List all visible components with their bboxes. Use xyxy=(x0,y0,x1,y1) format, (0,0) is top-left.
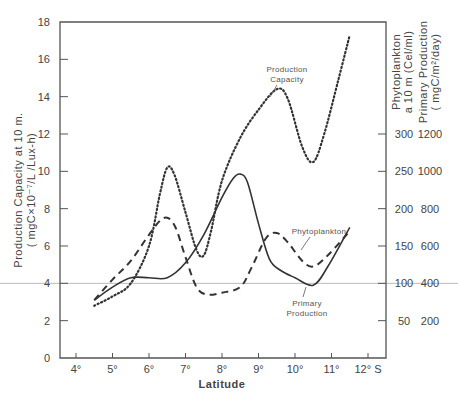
y-right-prod-line2: ( mgC/m²/day) xyxy=(429,34,441,111)
y-left-tick-label: 16 xyxy=(38,53,50,65)
y-axis-right-title-prod: Primary Production ( mgC/m²/day) xyxy=(417,21,441,124)
annotation-primary-production-line1: Primary xyxy=(292,299,322,308)
y-axis-right-title-phyto: Phytoplankton a 10 m (Cel/ml) xyxy=(390,31,414,114)
series-production-capacity xyxy=(94,35,350,306)
y-right-phyto-line1: Phytoplankton xyxy=(390,34,402,110)
y-right-prod-label: 1000 xyxy=(418,165,442,177)
y-right-prod-label: 400 xyxy=(421,277,439,289)
y-left-tick-label: 12 xyxy=(38,128,50,140)
x-tick-label: 4° xyxy=(71,363,82,375)
x-tick-label: 5° xyxy=(107,363,118,375)
annotation-production-capacity-line2: Capacity xyxy=(270,75,304,84)
x-tick-label: 10° xyxy=(287,363,304,375)
x-tick-label: 11° xyxy=(324,363,340,375)
x-tick-label: 8° xyxy=(217,363,228,375)
y-left-tick-label: 18 xyxy=(38,16,50,28)
y-right-phyto-label: 50 xyxy=(398,315,410,327)
plot-frame xyxy=(60,22,386,358)
y-right-phyto-label: 300 xyxy=(395,128,413,140)
x-tick-label: 6° xyxy=(144,363,155,375)
y-axis-left-title: Production Capacity at 10 m. ( mgC×10⁻⁷/… xyxy=(12,112,37,267)
y-left-tick-label: 8 xyxy=(44,203,50,215)
annotation-phytoplankton: Phytoplankton xyxy=(292,227,347,236)
y-right-prod-label: 200 xyxy=(421,315,439,327)
y-right-phyto-label: 150 xyxy=(395,240,413,252)
y-left-title-line1: Production Capacity at 10 m. xyxy=(12,112,24,267)
y-left-title-line2: ( mgC×10⁻⁷/L /Lux-h) xyxy=(25,133,37,247)
y-right-phyto-line2: a 10 m (Cel/ml) xyxy=(402,31,414,114)
annotation-production-capacity-line1: Production xyxy=(266,65,307,74)
y-right-phyto-label: 200 xyxy=(395,203,413,215)
x-tick-label: 7° xyxy=(180,363,191,375)
series-group xyxy=(94,35,350,306)
y-right-prod-line1: Primary Production xyxy=(417,21,429,124)
x-tick-label: 9° xyxy=(253,363,264,375)
y-left-tick-label: 4 xyxy=(44,277,50,289)
y-left-tick-label: 6 xyxy=(44,240,50,252)
y-left-tick-label: 2 xyxy=(44,315,50,327)
y-left-tick-label: 14 xyxy=(38,91,50,103)
x-axis: 4°5°6°7°8°9°10°11°12° S xyxy=(71,353,382,375)
x-tick-label: 12° S xyxy=(354,363,381,375)
y-right-prod-label: 1200 xyxy=(418,128,442,140)
annotation-primary-production-line2: Production xyxy=(286,309,327,318)
annotations: ProductionCapacityPhytoplanktonPrimaryPr… xyxy=(266,65,346,318)
y-right-prod-label: 800 xyxy=(421,203,439,215)
y-axis-right: 5020010040015060020080025010003001200 xyxy=(378,128,442,327)
x-axis-title: Latitude xyxy=(199,378,246,390)
y-axis-left: 024681012141618 xyxy=(38,16,68,364)
y-right-phyto-label: 100 xyxy=(395,277,413,289)
y-right-prod-label: 600 xyxy=(421,240,439,252)
y-left-tick-label: 0 xyxy=(44,352,50,364)
y-left-tick-label: 10 xyxy=(38,165,50,177)
chart: 4°5°6°7°8°9°10°11°12° S 024681012141618 … xyxy=(0,0,458,397)
y-right-phyto-label: 250 xyxy=(395,165,413,177)
